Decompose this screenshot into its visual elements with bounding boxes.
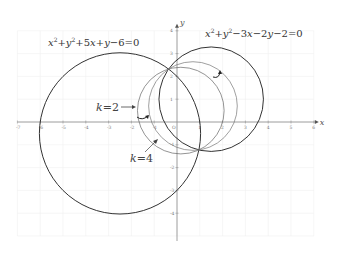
- pencil-of-circles-diagram: xy-7-6-5-4-3-2-11234564321-1-2-3-4O x2+y…: [0, 0, 337, 256]
- axes: xy-7-6-5-4-3-2-11234564321-1-2-3-4O: [16, 18, 325, 241]
- x-tick-label: -2: [130, 125, 135, 130]
- x-tick-label: 6: [312, 125, 315, 130]
- origin-label: O: [172, 125, 176, 130]
- x-tick-label: 4: [267, 125, 270, 130]
- circles: [39, 47, 263, 214]
- circle-s1: [39, 53, 200, 214]
- y-tick-label: 1: [170, 97, 173, 102]
- k2-arrow-icon: [121, 105, 136, 109]
- y-tick-label: 2: [170, 74, 173, 79]
- x-axis-arrow-icon: [315, 120, 319, 124]
- y-axis-label: y: [179, 18, 185, 27]
- k4-arrow-icon: [145, 139, 158, 152]
- x-tick-label: -3: [107, 125, 112, 130]
- x-axis-label: x: [320, 118, 325, 127]
- equation-label-s2: x2+y2−3x−2y−2=0: [205, 27, 303, 39]
- x-tick-label: 5: [290, 125, 293, 130]
- y-tick-label: -2: [170, 165, 175, 170]
- x-tick-label: 3: [244, 125, 247, 130]
- x-tick-label: -7: [16, 125, 21, 130]
- y-tick-label: 4: [170, 28, 173, 33]
- equation-label-s1: x2+y2+5x+y−6=0: [48, 36, 139, 48]
- y-tick-label: -3: [170, 188, 175, 193]
- y-tick-label: -1: [170, 142, 175, 147]
- k4-label: k=4: [130, 152, 153, 165]
- x-tick-label: -4: [84, 125, 89, 130]
- grid: [17, 31, 313, 236]
- k2-label: k=2: [96, 101, 119, 114]
- direction-arrow-left-icon: [137, 115, 149, 119]
- y-tick-label: 3: [170, 51, 173, 56]
- x-tick-label: -5: [62, 125, 67, 130]
- y-tick-label: -4: [170, 211, 175, 216]
- y-axis-arrow-icon: [175, 24, 179, 28]
